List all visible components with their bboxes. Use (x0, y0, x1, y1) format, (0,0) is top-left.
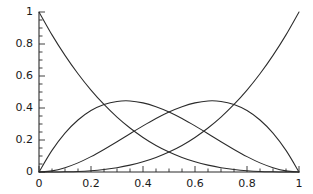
x-tick-label: 0.8 (238, 177, 256, 190)
bernstein-basis-plot: 00.20.40.60.81 00.20.40.60.81 (0, 0, 313, 194)
chart-figure: 00.20.40.60.81 00.20.40.60.81 (0, 0, 313, 194)
y-tick-label: 0.4 (16, 101, 34, 114)
y-tick-label: 0.6 (16, 69, 34, 82)
y-tick-label: 1 (26, 5, 33, 18)
x-tick-label: 0.2 (82, 177, 100, 190)
y-tick-label: 0 (26, 165, 33, 178)
x-tick-label: 0.4 (134, 177, 152, 190)
x-tick-label: 1 (296, 177, 303, 190)
y-tick-label: 0.8 (16, 37, 34, 50)
x-tick-label: 0.6 (186, 177, 204, 190)
y-tick-label: 0.2 (16, 133, 34, 146)
x-tick-label: 0 (36, 177, 43, 190)
